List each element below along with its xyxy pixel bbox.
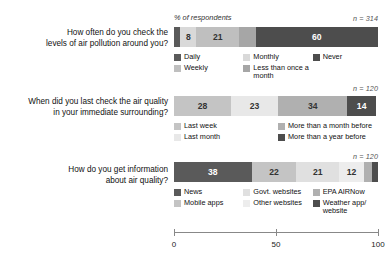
legend-label: Monthly (253, 53, 279, 62)
bar-segment (364, 162, 372, 182)
question-label: How often do you check thelevels of air … (8, 28, 168, 49)
legend-item: Mobile apps (174, 199, 243, 216)
axis-tick-label: 0 (172, 240, 176, 249)
legend-item: Never (313, 53, 382, 62)
legend-item: Last week (174, 122, 278, 131)
legend-label: Last month (184, 133, 220, 142)
legend-item: News (174, 188, 243, 197)
legend-swatch-icon (313, 189, 320, 196)
bar-segment: 21 (196, 27, 239, 47)
legend-swatch-icon (174, 134, 181, 141)
axis-tick-label: 50 (272, 240, 281, 249)
legend-item: More than a month before (278, 122, 382, 131)
stacked-bar-chart-figure: % of respondents n = 314 How often do yo… (0, 0, 389, 259)
bar-segment: 8 (180, 27, 196, 47)
bar-segment: 38 (174, 162, 252, 182)
axis-tick-label: 100 (371, 240, 384, 249)
axis-tick (378, 229, 379, 236)
legend-label: Govt. websites (253, 188, 301, 197)
bar-segment: 34 (278, 96, 347, 116)
legend-item: Other websites (243, 199, 312, 216)
x-axis: 050100 (174, 232, 378, 254)
question-line: in your immediate surrounding? (8, 108, 168, 119)
legend-swatch-icon (174, 200, 181, 207)
legend-swatch-icon (174, 123, 181, 130)
legend-item: More than a year before (278, 133, 382, 142)
legend-item: Last month (174, 133, 278, 142)
stacked-bar: 38222112 (174, 162, 378, 182)
legend-swatch-icon (278, 134, 285, 141)
legend: Last weekMore than a month beforeLast mo… (174, 122, 382, 143)
sample-size-label: n = 120 (353, 84, 378, 93)
legend-item: EPA AIRNow (313, 188, 382, 197)
legend-swatch-icon (174, 189, 181, 196)
legend-swatch-icon (174, 65, 181, 72)
legend-item: Weekly (174, 64, 243, 81)
question-line: levels of air pollution around you? (8, 39, 168, 50)
legend-label: Less than once a month (253, 64, 310, 81)
legend-label: Daily (184, 53, 200, 62)
legend-label: More than a year before (288, 133, 366, 142)
question-line: about air quality? (8, 176, 168, 187)
axis-tick (276, 229, 277, 236)
legend-item: Monthly (243, 53, 312, 62)
legend-label: Weather app/ website (323, 199, 367, 216)
legend-label: Mobile apps (184, 199, 223, 208)
legend-swatch-icon (313, 54, 320, 61)
question-line: When did you last check the air quality (8, 97, 168, 108)
bar-segment: 14 (347, 96, 376, 116)
bar-segment: 23 (231, 96, 278, 116)
legend-item: Govt. websites (243, 188, 312, 197)
legend-swatch-icon (243, 65, 250, 72)
legend-item: Less than once a month (243, 64, 312, 81)
stacked-bar: 28233414 (174, 96, 378, 116)
legend: NewsGovt. websitesEPA AIRNowMobile appsO… (174, 188, 382, 218)
axis-tick (174, 229, 175, 236)
legend-swatch-icon (313, 200, 320, 207)
sample-size-label: n = 120 (353, 152, 378, 161)
question-label: When did you last check the air qualityi… (8, 97, 168, 118)
question-label: How do you get informationabout air qual… (8, 165, 168, 186)
legend-label: Weekly (184, 64, 208, 73)
sample-size-label: n = 314 (353, 14, 378, 23)
bar-segment (372, 162, 378, 182)
legend-swatch-icon (243, 200, 250, 207)
legend-label: Never (323, 53, 342, 62)
legend: DailyMonthlyNeverWeeklyLess than once a … (174, 53, 382, 83)
legend-label: EPA AIRNow (323, 188, 365, 197)
legend-swatch-icon (243, 189, 250, 196)
question-line: How do you get information (8, 165, 168, 176)
legend-label: More than a month before (288, 122, 372, 131)
bar-segment: 12 (339, 162, 363, 182)
legend-label: News (184, 188, 202, 197)
bar-segment: 22 (252, 162, 297, 182)
legend-item: Weather app/ website (313, 199, 382, 216)
axis-title: % of respondents (174, 13, 232, 22)
stacked-bar: 82160 (174, 27, 378, 47)
legend-swatch-icon (278, 123, 285, 130)
legend-label: Other websites (253, 199, 302, 208)
bar-segment: 21 (296, 162, 339, 182)
legend-item: Daily (174, 53, 243, 62)
bar-segment: 60 (256, 27, 378, 47)
bar-segment: 28 (174, 96, 231, 116)
legend-swatch-icon (174, 54, 181, 61)
legend-label: Last week (184, 122, 217, 131)
bar-segment (239, 27, 255, 47)
legend-swatch-icon (243, 54, 250, 61)
question-line: How often do you check the (8, 28, 168, 39)
